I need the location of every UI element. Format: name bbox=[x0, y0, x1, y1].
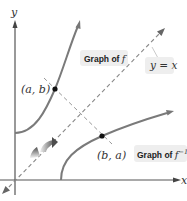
label-graph-of-f-inverse-text: Graph of bbox=[137, 150, 175, 160]
label-y-equals-x-text: y = x bbox=[149, 59, 177, 71]
svg-text:Graph of f: Graph of f bbox=[84, 53, 128, 64]
curve-f bbox=[15, 20, 81, 133]
label-graph-of-f-inverse: Graph of f−1 bbox=[134, 145, 187, 162]
x-axis: x bbox=[0, 174, 187, 187]
label-graph-of-f-text: Graph of bbox=[84, 54, 122, 64]
y-axis-label: y bbox=[10, 6, 18, 19]
y-axis: y bbox=[10, 6, 18, 195]
point-b-a bbox=[99, 133, 104, 138]
label-y-equals-x: y = x bbox=[145, 57, 177, 74]
x-axis-label: x bbox=[181, 174, 187, 187]
point-a-b bbox=[52, 86, 57, 91]
reflection-arrow-icon bbox=[30, 137, 58, 158]
point-label-b-a: (b, a) bbox=[97, 149, 126, 162]
point-label-a-b: (a, b) bbox=[21, 83, 50, 96]
label-graph-of-f: Graph of f bbox=[80, 50, 128, 66]
inverse-function-diagram: y x (a, b) (b, a) Graph of f y bbox=[0, 0, 187, 201]
